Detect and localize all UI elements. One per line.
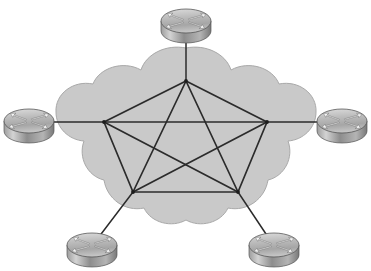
mesh-node-n-left [102, 120, 106, 124]
router-r-bottom-left[interactable]: bottom left router [67, 233, 117, 267]
mesh-node-n-bottom-left [131, 190, 135, 194]
cisco-router-icon [4, 109, 54, 143]
network-diagram-canvas: top routerleft routerright routerbottom … [0, 0, 371, 271]
mesh-node-n-bottom-right [236, 190, 240, 194]
router-r-right[interactable]: right router [317, 109, 367, 143]
cisco-router-icon [317, 109, 367, 143]
router-r-left[interactable]: left router [4, 109, 54, 143]
router-r-bottom-right[interactable]: bottom right router [249, 233, 299, 267]
cisco-router-icon [67, 233, 117, 267]
router-r-top[interactable]: top router [161, 9, 211, 43]
mesh-node-n-right [265, 120, 269, 124]
mesh-node-n-top [184, 79, 188, 83]
cisco-router-icon [249, 233, 299, 267]
network-diagram: top routerleft routerright routerbottom … [0, 0, 371, 271]
cisco-router-icon [161, 9, 211, 43]
